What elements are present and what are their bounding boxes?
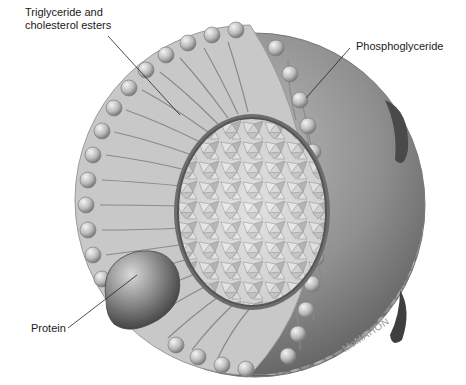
lipoprotein-diagram <box>0 0 466 385</box>
label-core: Triglyceride and cholesterol esters <box>25 6 111 32</box>
lipid-core <box>174 114 330 310</box>
label-core-line2: cholesterol esters <box>25 19 111 32</box>
label-protein: Protein <box>31 322 66 335</box>
label-phosphoglyceride: Phosphoglyceride <box>356 40 443 53</box>
label-core-line1: Triglyceride and <box>25 6 111 19</box>
